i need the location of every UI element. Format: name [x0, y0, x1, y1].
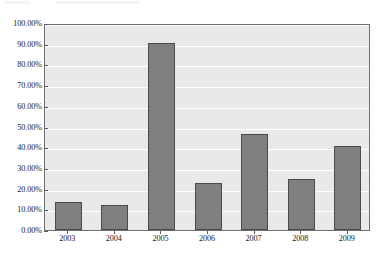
- y-axis-tick-label: 60.00%: [0, 103, 42, 111]
- gridline: [45, 170, 369, 171]
- x-axis-tick-label: 2009: [339, 235, 355, 243]
- y-axis-tick-label: 40.00%: [0, 144, 42, 152]
- y-axis-tick-mark: [44, 210, 48, 211]
- gridline: [45, 149, 369, 150]
- y-axis-tick-mark: [44, 45, 48, 46]
- plot-area: [44, 24, 370, 231]
- bar-2007: [241, 134, 268, 230]
- x-axis-tick-mark: [347, 231, 348, 234]
- y-axis-tick-mark: [44, 86, 48, 87]
- y-axis-tick-label: 70.00%: [0, 82, 42, 90]
- x-axis-tick-mark: [300, 231, 301, 234]
- y-axis-tick-mark: [44, 148, 48, 149]
- gridline: [45, 129, 369, 130]
- y-axis-tick-labels: 0.00%10.00%20.00%30.00%40.00%50.00%60.00…: [0, 24, 42, 231]
- bar-2008: [288, 179, 315, 230]
- y-axis-tick-mark: [44, 107, 48, 108]
- y-axis-tick-mark: [44, 169, 48, 170]
- x-axis-tick-label: 2006: [199, 235, 215, 243]
- gridline: [45, 87, 369, 88]
- y-axis-tick-mark: [44, 190, 48, 191]
- y-axis-tick-label: 50.00%: [0, 123, 42, 131]
- bar-2004: [101, 205, 128, 230]
- y-axis-tick-label: 100.00%: [0, 20, 42, 28]
- bar-2005: [148, 43, 175, 230]
- y-axis-tick-label: 80.00%: [0, 61, 42, 69]
- y-axis-tick-mark: [44, 65, 48, 66]
- x-axis-tick-mark: [67, 231, 68, 234]
- x-axis-tick-label: 2007: [246, 235, 262, 243]
- y-axis-tick-label: 20.00%: [0, 185, 42, 193]
- y-axis-tick-label: 10.00%: [0, 206, 42, 214]
- y-axis-tick-mark: [44, 128, 48, 129]
- x-axis-tick-label: 2008: [292, 235, 308, 243]
- y-axis-tick-label: 30.00%: [0, 165, 42, 173]
- y-axis-tick-label: 90.00%: [0, 41, 42, 49]
- x-axis-tick-mark: [254, 231, 255, 234]
- x-axis-tick-mark: [207, 231, 208, 234]
- x-axis-tick-label: 2004: [106, 235, 122, 243]
- x-axis-tick-mark: [114, 231, 115, 234]
- x-axis-tick-labels: 2003200420052006200720082009: [44, 235, 370, 249]
- bar-chart: 0.00%10.00%20.00%30.00%40.00%50.00%60.00…: [0, 0, 384, 255]
- gridline: [45, 25, 369, 26]
- x-axis-tick-label: 2003: [59, 235, 75, 243]
- bar-2003: [55, 202, 82, 230]
- y-axis-tick-mark: [44, 231, 48, 232]
- y-axis-tick-mark: [44, 24, 48, 25]
- gridline: [45, 66, 369, 67]
- gridline: [45, 108, 369, 109]
- gridline: [45, 46, 369, 47]
- x-axis-tick-mark: [160, 231, 161, 234]
- bar-2006: [195, 183, 222, 230]
- bar-2009: [334, 146, 361, 230]
- x-axis-tick-label: 2005: [152, 235, 168, 243]
- y-axis-tick-label: 0.00%: [0, 227, 42, 235]
